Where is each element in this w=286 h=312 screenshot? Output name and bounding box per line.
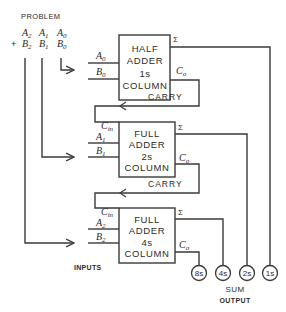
svg-text:8s: 8s xyxy=(195,269,203,278)
label-b1: B1 xyxy=(96,145,106,158)
carry-out-wire-8s xyxy=(175,252,199,266)
output-1s: 1s xyxy=(263,266,278,281)
carry-out-label-1: Co xyxy=(176,65,187,78)
input-wire-col1 xyxy=(42,58,74,157)
svg-text:COLUMN: COLUMN xyxy=(125,162,170,173)
label-a0: A0 xyxy=(95,50,106,63)
svg-text:FULL: FULL xyxy=(134,128,160,139)
inputs-label: INPUTS xyxy=(74,264,101,271)
problem-title: PROBLEM xyxy=(21,12,60,21)
label-b0: B0 xyxy=(96,66,106,79)
svg-text:4s: 4s xyxy=(219,269,227,278)
full-adder-4s: FULL ADDER 4s COLUMN xyxy=(119,208,175,263)
carry-label-2: CARRY xyxy=(148,179,183,189)
svg-text:ADDER: ADDER xyxy=(129,139,165,150)
svg-text:4s: 4s xyxy=(141,237,152,248)
svg-text:2s: 2s xyxy=(141,151,152,162)
sum-label-2: Σ xyxy=(178,123,183,132)
label-a2: A2 xyxy=(95,217,106,230)
svg-text:1s: 1s xyxy=(266,269,274,278)
label-b2: B2 xyxy=(96,231,106,244)
input-wire-col2 xyxy=(25,58,74,243)
svg-text:ADDER: ADDER xyxy=(127,55,163,66)
carry-out-label-3: Co xyxy=(179,239,190,252)
input-wire-col0 xyxy=(61,58,74,70)
sum-label: SUM xyxy=(226,285,245,294)
problem-row-b: + B2 B1 B0 xyxy=(11,38,67,51)
sum-label-3: Σ xyxy=(178,208,183,217)
svg-text:2s: 2s xyxy=(243,269,251,278)
svg-text:ADDER: ADDER xyxy=(129,225,165,236)
sum-label-1: Σ xyxy=(173,35,178,44)
full-adder-2s: FULL ADDER 2s COLUMN xyxy=(119,122,175,177)
svg-text:1s: 1s xyxy=(139,68,150,79)
svg-text:COLUMN: COLUMN xyxy=(123,80,168,91)
svg-text:+: + xyxy=(11,39,16,49)
output-8s: 8s xyxy=(192,266,207,281)
binary-adder-diagram: PROBLEM A2 A1 A0 + B2 B1 B0 HALF ADDER 1… xyxy=(0,0,286,312)
svg-text:COLUMN: COLUMN xyxy=(125,248,170,259)
carry-out-label-2: Co xyxy=(179,152,190,165)
label-a1: A1 xyxy=(95,131,106,144)
output-2s: 2s xyxy=(240,266,255,281)
output-4s: 4s xyxy=(216,266,231,281)
half-adder-1s: HALF ADDER 1s COLUMN xyxy=(119,35,170,100)
svg-text:FULL: FULL xyxy=(134,214,160,225)
output-label: OUTPUT xyxy=(219,297,250,304)
carry-label-1: CARRY xyxy=(148,92,183,102)
svg-text:HALF: HALF xyxy=(132,43,159,54)
